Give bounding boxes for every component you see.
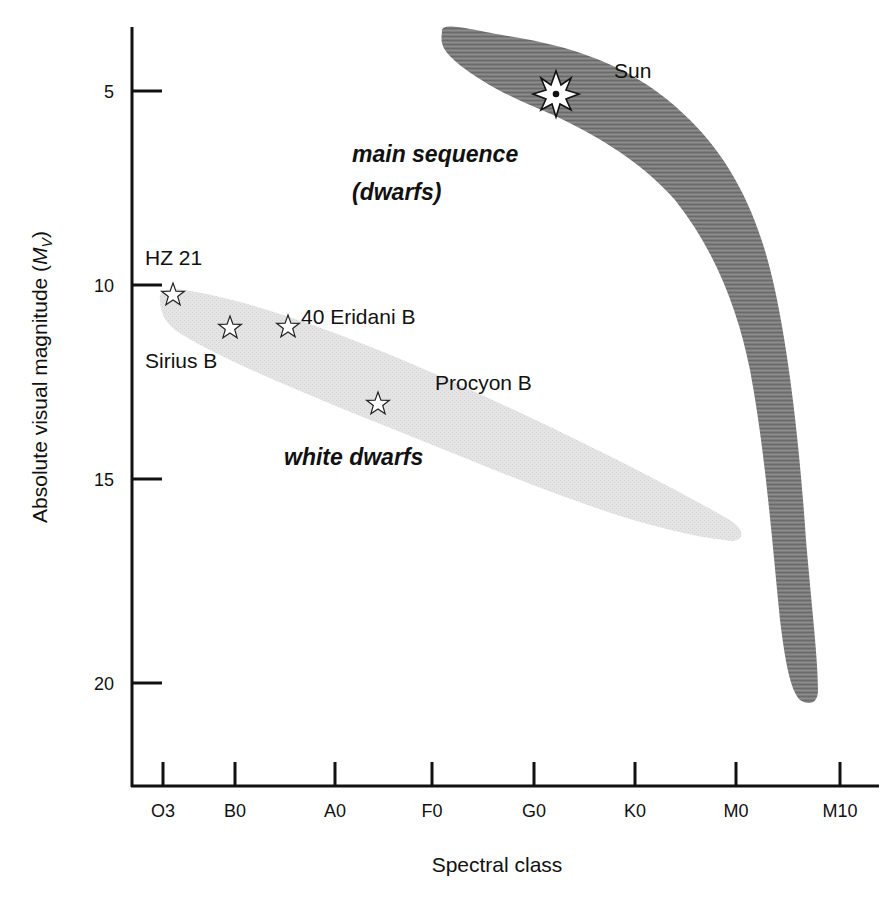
y-ticks: [132, 91, 162, 683]
sirius-b-label: Sirius B: [145, 349, 217, 372]
main-sequence-label: main sequence: [352, 141, 518, 167]
y-axis-title-close: ): [28, 231, 51, 238]
x-tick-label-b0: B0: [224, 801, 246, 821]
x-tick-label-k0: K0: [624, 801, 646, 821]
y-tick-label-20: 20: [94, 674, 114, 694]
eridani-b-label: 40 Eridani B: [301, 305, 415, 328]
white-dwarf-region: [160, 289, 742, 541]
x-tick-label-m0: M0: [723, 801, 748, 821]
main-sequence-sublabel: (dwarfs): [352, 179, 441, 205]
y-axis-title-main: Absolute visual magnitude (: [28, 265, 51, 523]
x-axis-title: Spectral class: [432, 853, 563, 876]
y-axis-title: Absolute visual magnitude (MV): [28, 231, 55, 523]
x-tick-label-o3: O3: [151, 801, 175, 821]
hz21-label: HZ 21: [145, 246, 202, 269]
x-ticks: [163, 762, 840, 786]
y-tick-label-10: 10: [94, 276, 114, 296]
procyon-b-label: Procyon B: [435, 371, 532, 394]
x-tick-label-a0: A0: [324, 801, 346, 821]
x-tick-label-m10: M10: [822, 801, 857, 821]
white-dwarfs-label: white dwarfs: [284, 444, 423, 470]
x-tick-label-f0: F0: [421, 801, 442, 821]
y-axis-title-symbol: M: [28, 247, 51, 265]
y-tick-label-5: 5: [104, 82, 114, 102]
main-sequence-region: [441, 26, 818, 703]
hr-diagram-chart: 5 10 15 20 O3 B0 A0 F0 G0 K0 M0 M10 Spec…: [0, 0, 896, 905]
x-tick-labels: O3 B0 A0 F0 G0 K0 M0 M10: [151, 801, 858, 821]
sun-label: Sun: [614, 59, 651, 82]
x-tick-label-g0: G0: [522, 801, 546, 821]
y-tick-labels: 5 10 15 20: [94, 82, 114, 694]
y-tick-label-15: 15: [94, 470, 114, 490]
